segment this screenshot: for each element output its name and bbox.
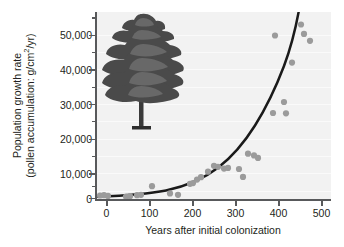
x-tick-label-400: 400 — [257, 207, 301, 219]
y-tick-minor-25000 — [92, 121, 96, 122]
x-axis-line — [95, 199, 331, 201]
x-tick-200 — [192, 200, 194, 206]
y-axis-title-superscript: 2 — [22, 48, 31, 52]
y-tick-label-10000: 10,000 — [32, 169, 92, 180]
y-axis-line — [95, 12, 97, 200]
y-tick-label-30000: 30,000 — [32, 100, 92, 111]
y-tick-label-50000: 50,000 — [32, 30, 92, 41]
exponential-fit-curve — [98, 12, 299, 197]
y-tick-minor-5000 — [92, 186, 96, 187]
y-tick-minor-top — [92, 17, 96, 18]
y-tick-0 — [89, 198, 95, 200]
x-axis-title: Years after initial colonization — [95, 224, 331, 236]
x-tick-label-300: 300 — [214, 207, 258, 219]
y-tick-50000 — [89, 35, 95, 37]
y-tick-minor-45000 — [92, 52, 96, 53]
y-tick-20000 — [89, 139, 95, 141]
x-tick-300 — [235, 200, 237, 206]
x-tick-500 — [321, 200, 323, 206]
scatter-markers — [97, 21, 313, 199]
y-tick-label-0: 0 — [32, 194, 92, 205]
plot-data-layer — [96, 12, 331, 199]
x-tick-label-200: 200 — [171, 207, 215, 219]
y-axis-title-line1: Population growth rate — [11, 33, 24, 177]
x-tick-label-500: 500 — [300, 207, 344, 219]
x-tick-label-100: 100 — [128, 207, 172, 219]
y-tick-minor-35000 — [92, 87, 96, 88]
chart-figure: Population growth rate (pollen accumulat… — [0, 0, 344, 247]
x-tick-100 — [149, 200, 151, 206]
x-tick-label-0: 0 — [85, 207, 129, 219]
plot-area — [96, 12, 331, 199]
y-tick-minor-15000 — [92, 156, 96, 157]
y-tick-30000 — [89, 104, 95, 106]
y-tick-label-40000: 40,000 — [32, 65, 92, 76]
x-tick-0 — [106, 200, 108, 206]
y-tick-10000 — [89, 173, 95, 175]
y-tick-40000 — [89, 69, 95, 71]
x-tick-400 — [278, 200, 280, 206]
y-tick-label-20000: 20,000 — [32, 134, 92, 145]
